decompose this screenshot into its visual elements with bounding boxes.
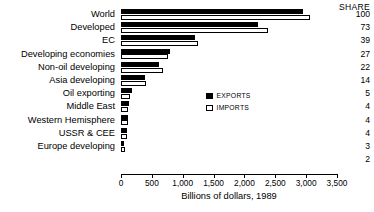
legend-label-imports: IMPORTS	[217, 104, 250, 111]
bar-group	[121, 48, 337, 61]
share-value: 4	[342, 100, 370, 113]
category-label: Asia developing	[0, 74, 118, 87]
share-value: 14	[342, 74, 370, 87]
share-value: 39	[342, 34, 370, 47]
bar-exports	[121, 128, 127, 133]
x-axis-line	[121, 174, 337, 175]
bar-exports	[121, 115, 128, 120]
bar-group	[121, 61, 337, 74]
bar-imports	[121, 15, 310, 20]
share-column-values: 1007339272214544432	[342, 8, 370, 166]
x-axis-tick	[275, 174, 276, 178]
chart-legend: EXPORTS IMPORTS	[206, 91, 251, 115]
legend-item-imports: IMPORTS	[206, 103, 251, 113]
legend-label-exports: EXPORTS	[217, 92, 251, 99]
x-axis-tick	[183, 174, 184, 178]
bar-exports	[121, 49, 170, 54]
bar-group	[121, 140, 337, 153]
share-value: 2	[342, 153, 370, 166]
x-axis-tick	[121, 174, 122, 178]
share-value: 100	[342, 8, 370, 21]
bar-imports	[121, 107, 128, 112]
bar-exports	[121, 9, 303, 14]
bar-imports	[121, 147, 125, 152]
bar-imports	[121, 94, 130, 99]
x-axis-tick-label: 3,500	[317, 178, 357, 188]
bar-imports	[121, 81, 146, 86]
x-axis-tick	[337, 174, 338, 178]
bar-imports	[121, 120, 128, 125]
category-label: Developing economies	[0, 48, 118, 61]
bar-exports	[121, 22, 258, 27]
category-label: Oil exporting	[0, 87, 118, 100]
bar-exports	[121, 62, 159, 67]
legend-swatch-imports-icon	[206, 105, 213, 112]
bar-imports	[121, 41, 198, 46]
bar-exports	[121, 101, 129, 106]
bar-imports	[121, 134, 127, 139]
legend-swatch-exports-icon	[206, 93, 213, 100]
share-value: 27	[342, 48, 370, 61]
share-value: 5	[342, 87, 370, 100]
bar-exports	[121, 88, 132, 93]
category-label: Non-oil developing	[0, 61, 118, 74]
bar-exports	[121, 75, 145, 80]
bar-group	[121, 21, 337, 34]
category-label: Middle East	[0, 100, 118, 113]
share-value: 3	[342, 140, 370, 153]
bar-group	[121, 74, 337, 87]
bar-imports	[121, 28, 268, 33]
share-value: 4	[342, 127, 370, 140]
x-axis-tick	[306, 174, 307, 178]
bar-chart: WorldDevelopedECDeveloping economiesNon-…	[0, 0, 374, 212]
x-axis-tick	[214, 174, 215, 178]
category-label: USSR & CEE	[0, 127, 118, 140]
plot-area	[121, 8, 337, 166]
share-value: 22	[342, 61, 370, 74]
category-label: Western Hemisphere	[0, 114, 118, 127]
legend-item-exports: EXPORTS	[206, 91, 251, 101]
category-label: World	[0, 8, 118, 21]
bar-group	[121, 34, 337, 47]
x-axis-tick	[244, 174, 245, 178]
x-axis-tick	[152, 174, 153, 178]
category-axis-labels: WorldDevelopedECDeveloping economiesNon-…	[0, 8, 118, 153]
bar-group	[121, 114, 337, 127]
share-value: 4	[342, 114, 370, 127]
category-label: Europe developing	[0, 140, 118, 153]
bar-group	[121, 127, 337, 140]
bar-exports	[121, 35, 195, 40]
bar-group	[121, 8, 337, 21]
bar-imports	[121, 68, 163, 73]
share-value: 73	[342, 21, 370, 34]
bar-exports	[121, 141, 124, 146]
category-label: EC	[0, 34, 118, 47]
category-label: Developed	[0, 21, 118, 34]
bar-imports	[121, 54, 168, 59]
x-axis-title: Billions of dollars, 1989	[121, 191, 337, 201]
